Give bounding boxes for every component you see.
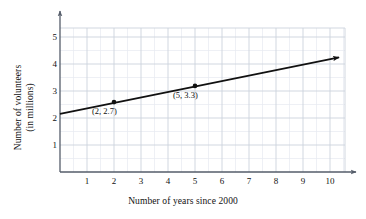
- data-point-1: [112, 100, 117, 105]
- x-tick-label-2: 2: [104, 176, 124, 186]
- x-tick-label-9: 9: [293, 176, 313, 186]
- x-tick-label-1: 1: [77, 176, 97, 186]
- y-tick-label-5: 5: [43, 32, 57, 42]
- x-tick-label-10: 10: [320, 176, 340, 186]
- x-tick-label-7: 7: [239, 176, 259, 186]
- chart-figure: 1 2 3 4 5 6 7 8 9 10 1 2 3 4 5 (2, 2.7) …: [0, 0, 366, 219]
- x-tick-label-4: 4: [158, 176, 178, 186]
- y-tick-label-1: 1: [43, 140, 57, 150]
- point-annotation-1: (2, 2.7): [92, 106, 117, 116]
- point-annotation-2: (5, 3.3): [173, 90, 198, 100]
- x-tick-label-8: 8: [266, 176, 286, 186]
- x-tick-label-5: 5: [185, 176, 205, 186]
- x-axis-title: Number of years since 2000: [0, 196, 366, 206]
- y-tick-label-3: 3: [43, 86, 57, 96]
- y-axis-title-line2: (in millions): [24, 38, 36, 178]
- y-tick-label-4: 4: [43, 59, 57, 69]
- y-axis-title-line1: Number of volunteers: [13, 38, 25, 178]
- y-tick-label-2: 2: [43, 113, 57, 123]
- x-tick-label-3: 3: [131, 176, 151, 186]
- minor-gridlines: [60, 28, 345, 172]
- major-gridlines: [60, 28, 345, 172]
- y-axis-title: Number of volunteers (in millions): [13, 38, 36, 178]
- x-tick-label-6: 6: [212, 176, 232, 186]
- data-point-2: [193, 84, 198, 89]
